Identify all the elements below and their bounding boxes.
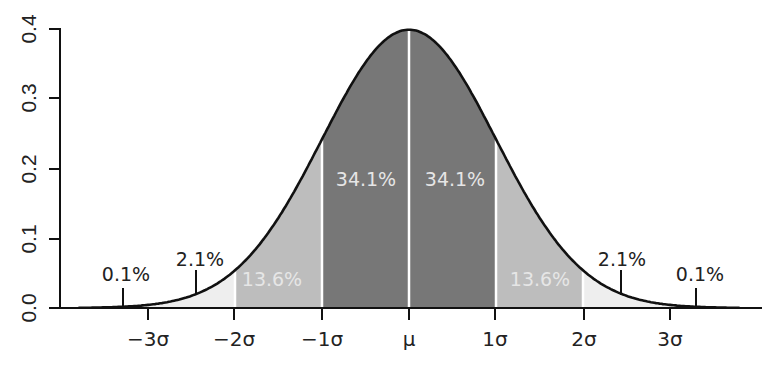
x-tick-label: μ bbox=[403, 327, 416, 351]
pct-label-1sd-2sd-right: 13.6% bbox=[510, 268, 570, 290]
x-ticks bbox=[148, 308, 670, 320]
pct-label-1sd-2sd-left: 13.6% bbox=[242, 268, 302, 290]
y-tick-labels: 0.0 0.1 0.2 0.3 0.4 bbox=[17, 14, 40, 323]
x-tick-label: −2σ bbox=[213, 327, 255, 351]
y-tick-label: 0.4 bbox=[17, 14, 40, 44]
y-tick-label: 0.2 bbox=[17, 154, 40, 183]
y-tick-label: 0.3 bbox=[17, 83, 40, 112]
x-tick-label: 3σ bbox=[657, 327, 683, 351]
normal-distribution-chart: 0.0 0.1 0.2 0.3 0.4 −3σ −2σ −1σ μ 1σ 2σ … bbox=[0, 0, 775, 366]
y-tick-label: 0.0 bbox=[17, 293, 40, 322]
pct-label-tail-right: 0.1% bbox=[676, 263, 724, 285]
x-tick-label: −3σ bbox=[127, 327, 169, 351]
y-tick-label: 0.1 bbox=[17, 224, 40, 253]
y-ticks bbox=[49, 29, 60, 308]
pct-label-tail-left: 0.1% bbox=[102, 263, 150, 285]
pct-label-2sd-3sd-right: 2.1% bbox=[598, 248, 646, 270]
x-tick-label: 1σ bbox=[482, 327, 508, 351]
pct-label-0-1sd-left: 34.1% bbox=[336, 168, 396, 190]
x-tick-labels: −3σ −2σ −1σ μ 1σ 2σ 3σ bbox=[127, 327, 683, 351]
pct-label-0-1sd-right: 34.1% bbox=[425, 168, 485, 190]
pct-label-2sd-3sd-left: 2.1% bbox=[176, 248, 224, 270]
x-tick-label: −1σ bbox=[301, 327, 343, 351]
x-tick-label: 2σ bbox=[571, 327, 597, 351]
